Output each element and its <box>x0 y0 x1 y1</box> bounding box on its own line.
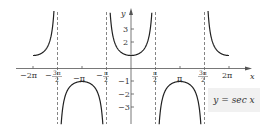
y-tick-m1: −1 <box>118 77 130 86</box>
y-tick-m3: −3 <box>118 103 130 112</box>
y-axis-arrow-icon <box>129 8 133 15</box>
x-tick-m2pi: −2π <box>20 71 37 80</box>
x-tick-p2pi: 2π <box>222 71 232 80</box>
x-tick-mpi2-num: π <box>104 69 108 76</box>
x-tick-pi2-den: 2 <box>153 76 157 83</box>
x-axis-arrow-icon <box>245 67 252 71</box>
sec-branch-4 <box>208 11 229 56</box>
x-tick-m3pi2-num: 3π <box>53 69 61 76</box>
x-tick-mpi: −π <box>73 74 85 83</box>
sec-branch-1 <box>61 82 103 125</box>
x-tick-pi2-num: π <box>153 69 157 76</box>
sec-branch-0 <box>33 11 54 56</box>
sec-branch-3 <box>159 82 201 125</box>
x-tick-m3pi2-den: 2 <box>55 76 59 83</box>
x-tick-p3pi2-den: 2 <box>201 76 205 83</box>
y-tick-m2: −2 <box>118 90 130 99</box>
sec-graph: y x 3 2 −1 −2 −3 −2π − 3π 2 −π − π 2 π 2… <box>0 0 270 132</box>
x-tick-p3pi2-num: 3π <box>199 69 207 76</box>
legend: y = sec x <box>208 88 260 112</box>
y-tick-2: 2 <box>123 38 128 47</box>
x-tick-mpi2-minus: − <box>96 71 103 80</box>
x-tick-mpi2-den: 2 <box>104 76 108 83</box>
x-axis-label: x <box>250 72 255 81</box>
x-tick-m3pi2-minus: − <box>45 71 52 80</box>
y-axis-label: y <box>120 9 126 18</box>
y-ticks <box>131 29 134 107</box>
y-tick-3: 3 <box>123 25 128 34</box>
x-tick-pi: π <box>177 74 182 83</box>
legend-label: y = sec x <box>208 88 260 112</box>
